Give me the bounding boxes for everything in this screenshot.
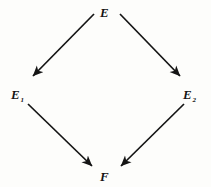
node-subscript-E1: 1 xyxy=(20,96,24,104)
arrow-E-to-E1 xyxy=(33,14,94,76)
node-label-F: F xyxy=(100,168,109,184)
arrow-E1-to-F xyxy=(28,104,92,166)
arrow-E2-to-F xyxy=(121,104,184,166)
arrow-E-to-E2 xyxy=(120,14,180,76)
node-label-E: E xyxy=(100,4,109,20)
node-base-E1: E xyxy=(11,87,20,102)
node-label-E1: E1 xyxy=(11,86,23,102)
node-label-E2: E2 xyxy=(183,86,195,102)
node-base-F: F xyxy=(100,169,109,184)
node-base-E: E xyxy=(100,5,109,20)
node-subscript-E2: 2 xyxy=(192,96,196,104)
diagram-canvas xyxy=(0,0,211,187)
node-base-E2: E xyxy=(183,87,192,102)
commutative-diagram: E E1 E2 F xyxy=(0,0,211,187)
